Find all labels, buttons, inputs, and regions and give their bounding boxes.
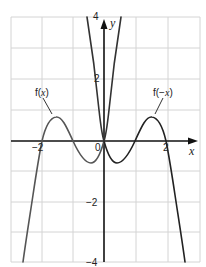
x-axis-label: x bbox=[189, 146, 194, 156]
annotation-f-neg-x: f(−x) bbox=[153, 88, 173, 98]
y-tick-neg4: −4 bbox=[86, 258, 97, 267]
pointer-lines bbox=[43, 98, 163, 114]
y-tick-2: 2 bbox=[94, 74, 100, 84]
annotation-f-x: f(x) bbox=[35, 88, 49, 98]
x-tick-0: 0 bbox=[95, 143, 101, 153]
grid bbox=[11, 17, 200, 262]
pointer-f-x bbox=[43, 98, 52, 114]
pointer-f-neg-x bbox=[155, 98, 163, 114]
y-axis-arrow-icon bbox=[101, 19, 108, 29]
graph-canvas bbox=[0, 0, 206, 267]
y-axis-label: y bbox=[110, 18, 115, 28]
x-tick-2: 2 bbox=[163, 143, 169, 153]
curve-f-neg-x bbox=[104, 117, 185, 262]
x-tick-neg2: −2 bbox=[32, 143, 43, 153]
y-tick-4: 4 bbox=[93, 12, 99, 22]
y-tick-neg2: −2 bbox=[86, 198, 97, 208]
curve-f-x bbox=[23, 117, 104, 262]
